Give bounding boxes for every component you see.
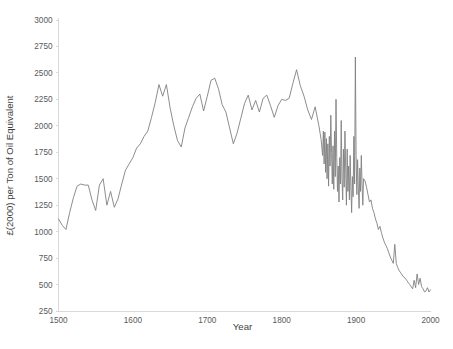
y-tick-label: 3000	[34, 16, 53, 25]
y-tick-label: 2000	[34, 122, 53, 131]
y-tick-label: 1500	[34, 175, 53, 184]
y-axis-tick-group: 2505007501000125015001750200022502500275…	[34, 16, 58, 316]
x-tick-label: 1700	[198, 316, 217, 325]
y-axis-title: £(2000) per Ton of Oil Equivalent	[4, 95, 15, 235]
x-tick-label: 1500	[49, 316, 68, 325]
x-tick-label: 2000	[421, 316, 440, 325]
x-axis-title: Year	[233, 321, 253, 332]
y-tick-label: 1250	[34, 201, 53, 210]
y-tick-label: 750	[39, 254, 53, 263]
y-tick-label: 2500	[34, 69, 53, 78]
line-chart: 2505007501000125015001750200022502500275…	[0, 0, 453, 349]
chart-canvas: 2505007501000125015001750200022502500275…	[0, 0, 453, 349]
y-tick-label: 2750	[34, 42, 53, 51]
x-tick-label: 1600	[124, 316, 143, 325]
y-tick-label: 1750	[34, 148, 53, 157]
y-tick-label: 500	[39, 281, 53, 290]
x-tick-label: 1900	[347, 316, 366, 325]
y-tick-label: 1000	[34, 228, 53, 237]
y-tick-label: 2250	[34, 95, 53, 104]
x-tick-label: 1800	[273, 316, 292, 325]
data-series-line	[59, 57, 431, 292]
y-tick-label: 250	[39, 307, 53, 316]
